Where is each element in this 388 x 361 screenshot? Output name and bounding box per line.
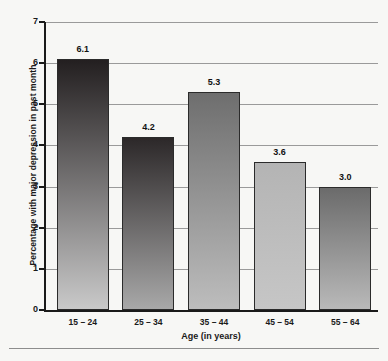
x-axis-category-label: 15 – 24 [48,318,118,327]
bar[interactable] [122,137,174,310]
y-tick-label: 4 [24,140,38,149]
bar[interactable] [188,92,240,310]
bar-value-label: 4.2 [118,123,178,132]
x-axis-line [44,310,378,312]
bar[interactable] [57,59,109,310]
y-axis-title: Percentage with major depression in past… [28,35,38,295]
bar-value-label: 3.6 [250,148,310,157]
bar[interactable] [319,187,371,310]
bar-value-label: 5.3 [184,78,244,87]
bar-value-label: 6.1 [53,45,113,54]
chart-page: Percentage with major depression in past… [0,0,388,361]
x-axis-category-label: 25 – 34 [113,318,183,327]
gridline [44,22,378,23]
y-tick-label: 7 [24,17,38,26]
x-axis-category-label: 55 – 64 [310,318,380,327]
y-tick-label: 5 [24,99,38,108]
x-axis-category-label: 35 – 44 [179,318,249,327]
bottom-divider [9,348,379,349]
y-tick-label: 6 [24,58,38,67]
bar-value-label: 3.0 [315,173,375,182]
y-tick-label: 1 [24,264,38,273]
y-axis-line [44,22,46,311]
bar[interactable] [254,162,306,310]
x-axis-title: Age (in years) [44,331,378,341]
plot-area: 01234567 6.14.25.33.63.0 [44,22,378,310]
y-tick-label: 2 [24,223,38,232]
x-axis-category-label: 45 – 54 [245,318,315,327]
y-tick-label: 0 [24,305,38,314]
y-tick-label: 3 [24,182,38,191]
